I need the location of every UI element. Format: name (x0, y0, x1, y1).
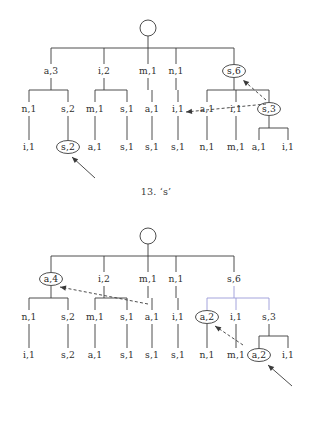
tree-node-highlighted: a,2 (200, 312, 215, 322)
tree-node: i,2 (98, 274, 110, 284)
tree-node: i,1 (23, 142, 35, 152)
tree-node: a,1 (88, 350, 103, 360)
arrow-to-i1 (186, 104, 266, 112)
tree-node: a,1 (88, 142, 103, 152)
tree-node: n,1 (169, 274, 184, 284)
tree-node: i,1 (230, 312, 242, 322)
tree-node: m,1 (227, 350, 245, 360)
tree-node: s,1 (120, 312, 134, 322)
arrow-to-a4-head (60, 286, 66, 291)
tree-node: m,1 (86, 312, 104, 322)
tree-node: m,1 (139, 274, 157, 284)
tree-node: m,1 (227, 142, 245, 152)
tree-node: s,2 (61, 312, 75, 322)
tree-node-highlighted: s,2 (61, 142, 75, 152)
tree-node: i,1 (282, 350, 294, 360)
tree-node: i,1 (172, 104, 184, 114)
tree-node: i,1 (230, 104, 242, 114)
tree-node: s,1 (171, 350, 185, 360)
tree-node: s,2 (61, 104, 75, 114)
tree-node: s,3 (262, 312, 276, 322)
tree-node: i,1 (282, 142, 294, 152)
tree-node: a,1 (145, 104, 160, 114)
figure-13: 13. ‘s’ a,3i,2m,1n,1s,6n,1s,2m,1s,1a,1i,… (0, 0, 312, 215)
arrow-to-i1-head (186, 109, 192, 114)
root-node-circle (140, 228, 156, 244)
tree-node: i,1 (23, 350, 35, 360)
figure-14: 14. ‘a’ a,4i,2m,1n,1s,6n,1s,2m,1s,1a,1i,… (0, 208, 312, 423)
tree-node: i,1 (172, 312, 184, 322)
tree-node: n,1 (200, 142, 215, 152)
tree-node: s,1 (145, 350, 159, 360)
tree-node: n,1 (200, 350, 215, 360)
tree-node: n,1 (169, 66, 184, 76)
tree-node-highlighted: a,4 (44, 274, 59, 284)
tree-node: a,1 (252, 142, 267, 152)
tree-node: m,1 (139, 66, 157, 76)
tree-node: s,1 (120, 350, 134, 360)
arrow-to-a2-head (215, 326, 221, 332)
tree-node-highlighted: a,2 (252, 350, 267, 360)
tree-node: a,1 (200, 104, 215, 114)
tree-node: s,6 (227, 274, 241, 284)
tree-node: s,1 (120, 142, 134, 152)
tree-node: s,2 (61, 350, 75, 360)
figure-13-caption: 13. ‘s’ (0, 186, 312, 197)
tree-node: s,1 (120, 104, 134, 114)
tree-node-highlighted: s,3 (262, 104, 276, 114)
tree-node: m,1 (86, 104, 104, 114)
tree-node: s,1 (145, 142, 159, 152)
tree-node: n,1 (22, 104, 37, 114)
tree-node: i,2 (98, 66, 110, 76)
tree-node: a,3 (44, 66, 59, 76)
tree-node: n,1 (22, 312, 37, 322)
root-node-circle (140, 20, 156, 36)
tree-node-highlighted: s,6 (227, 66, 241, 76)
tree-node: a,1 (145, 312, 160, 322)
tree-node: s,1 (171, 142, 185, 152)
